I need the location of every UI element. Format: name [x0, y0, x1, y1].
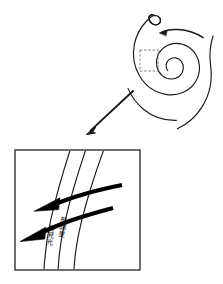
figure-root: 可見光 船總星 — [0, 0, 223, 284]
detail-panel-frame — [15, 150, 140, 270]
spiral-arm-c — [128, 88, 176, 120]
spiral-pattern — [128, 15, 213, 129]
inset-selection-box[interactable] — [140, 50, 158, 71]
spiral-arm-a — [133, 15, 199, 95]
rotation-direction-arrow — [160, 30, 203, 38]
magnified-detail-panel — [15, 149, 140, 272]
zoom-pointer-arrow — [87, 91, 133, 134]
figure-canvas — [0, 0, 223, 284]
